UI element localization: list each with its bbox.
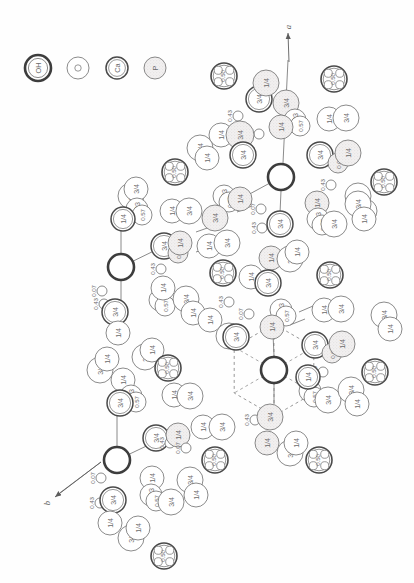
- atom-height-label: 1/4: [159, 283, 168, 293]
- atom-height-label: 3/4: [276, 219, 285, 229]
- atom-o: [326, 180, 336, 190]
- po4-oxygen: [332, 277, 340, 285]
- atom-height-label: 1/4: [293, 247, 302, 257]
- atom-circle: [181, 443, 191, 453]
- legend-label: OH: [34, 62, 43, 73]
- atom-height-label: 0.07: [249, 203, 256, 215]
- atom-o: [257, 223, 267, 233]
- atom-height-label: 0.43: [158, 437, 165, 449]
- po4-height-label: 0.50: [314, 454, 321, 466]
- atom-height-label: 1/4: [353, 399, 362, 409]
- atom-height-label: 0.07: [89, 472, 96, 484]
- po4-height-label: 0.50: [163, 362, 170, 374]
- atom-height-label: 1/4: [199, 422, 208, 432]
- bond-line: [299, 306, 313, 312]
- atom-height-label: 3/4: [167, 497, 176, 507]
- atom-height-label: 3/4: [111, 307, 120, 317]
- atom-height-label: 1/4: [313, 198, 322, 208]
- atom-circle: [156, 264, 166, 274]
- atom-height-label: 0.43: [319, 179, 326, 191]
- atom-o: [244, 309, 254, 319]
- legend: OHCaP: [25, 55, 166, 81]
- po4-height-label: 0.50: [329, 73, 336, 85]
- atom-height-label: 1/4: [148, 345, 157, 355]
- atom-height-label: 1/4: [205, 241, 214, 251]
- atom-height-label: 0.43: [250, 222, 257, 234]
- atom-height-label: 3/4: [324, 395, 333, 405]
- atom-height-label: 1/4: [344, 148, 353, 158]
- atom-height-label: 0.43: [226, 110, 233, 122]
- atom-height-label: 3/4: [239, 150, 248, 160]
- atom-height-label: 3/4: [342, 113, 351, 123]
- oh-site-circle: [261, 357, 287, 383]
- po4-oxygen: [225, 263, 233, 271]
- po4-oxygen: [166, 558, 174, 566]
- atom-circle: [224, 297, 234, 307]
- atom-height-label: 1/4: [106, 518, 115, 528]
- atom-circle: [254, 129, 264, 139]
- atom-height-label: 3/4: [232, 332, 241, 342]
- atom-height-label: 3/4: [109, 495, 118, 505]
- po4-oxygen: [166, 546, 174, 554]
- atom-o: [156, 264, 166, 274]
- atom-height-label: 3/4: [211, 213, 220, 223]
- legend-item-ca[interactable]: Ca: [106, 57, 128, 79]
- crystal-structure-svg: 3/41/43/40.930.571/40.430.071/43/43/41/4…: [0, 0, 414, 583]
- atom-height-label: 1/4: [386, 324, 395, 334]
- atom-o: [96, 473, 106, 483]
- legend-label: P: [151, 65, 160, 70]
- atom-o: [224, 297, 234, 307]
- po4-height-label: 0.50: [219, 70, 226, 82]
- axis-arrow-a: [288, 33, 289, 62]
- atom-height-label: 1/4: [119, 375, 128, 385]
- atom-layer: 3/41/43/40.930.571/40.430.071/43/43/41/4…: [87, 70, 402, 551]
- atom-height-label: 1/4: [114, 328, 123, 338]
- atom-o: [181, 443, 191, 453]
- po4-oxygen: [386, 172, 394, 180]
- legend-item-o[interactable]: [67, 57, 89, 79]
- atom-height-label: 3/4: [160, 241, 169, 251]
- atom-height-label: 3/4: [266, 412, 275, 422]
- atom-height-label: 0.43: [217, 296, 224, 308]
- legend-o-icon: [67, 57, 89, 79]
- po4-oxygen: [386, 184, 394, 192]
- po4-oxygen: [225, 275, 233, 283]
- atom-height-label: 0.43: [88, 497, 95, 509]
- po4-height-label: 0.50: [325, 269, 332, 281]
- atom-height-label: 3/4: [132, 184, 141, 194]
- legend-item-p[interactable]: P: [144, 57, 166, 79]
- atom-height-label: 1/4: [247, 272, 256, 282]
- atom-height-label: 1/4: [217, 130, 226, 140]
- atom-height-label: 1/4: [262, 78, 271, 88]
- atom-height-label: 1/4: [292, 438, 301, 448]
- atom-height-label: 3/4: [316, 150, 325, 160]
- atom-circle: [97, 286, 107, 296]
- atom-height-label: 1/4: [176, 238, 185, 248]
- po4-oxygen: [226, 66, 234, 74]
- po4-oxygen: [226, 78, 234, 86]
- atom-height-label: 3/4: [186, 391, 195, 401]
- atom-height-label: 0.43: [92, 298, 99, 310]
- atom-height-label: 3/4: [264, 278, 273, 288]
- atom-height-label: 1/4: [168, 206, 177, 216]
- atom-height-label: 3/4: [185, 206, 194, 216]
- bond-line: [280, 191, 281, 213]
- axis-label-b: b: [42, 501, 52, 505]
- axis-label-a: a: [283, 25, 293, 29]
- atom-circle: [257, 223, 267, 233]
- atom-height-label: 3/4: [218, 422, 227, 432]
- legend-item-oh[interactable]: OH: [25, 55, 51, 81]
- atom-height-label: 1/4: [206, 315, 215, 325]
- po4-oxygen: [336, 81, 344, 89]
- oh-site-circle: [104, 447, 130, 473]
- legend-label: Ca: [113, 62, 122, 72]
- atom-height-label: 1/4: [263, 438, 272, 448]
- atom-height-label: 0.57: [162, 300, 169, 312]
- atom-height-label: 1/4: [192, 490, 201, 500]
- atom-height-label: 1/4: [325, 114, 334, 124]
- atom-height-label: 3/4: [330, 219, 339, 229]
- atom-circle: [244, 309, 254, 319]
- po4-height-label: 0.50: [379, 176, 386, 188]
- atom-height-label: 3/4: [311, 340, 320, 350]
- atom-height-label: 3/4: [116, 398, 125, 408]
